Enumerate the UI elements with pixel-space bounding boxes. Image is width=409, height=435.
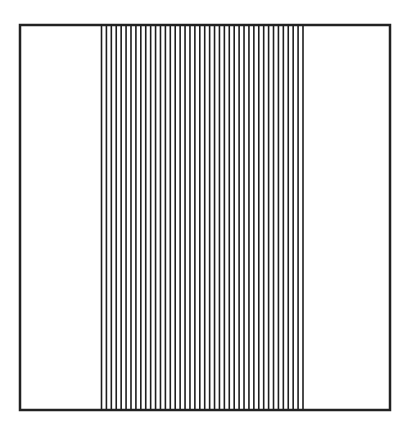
vertical-stripe-band xyxy=(102,25,304,410)
striped-square-figure xyxy=(0,0,409,435)
